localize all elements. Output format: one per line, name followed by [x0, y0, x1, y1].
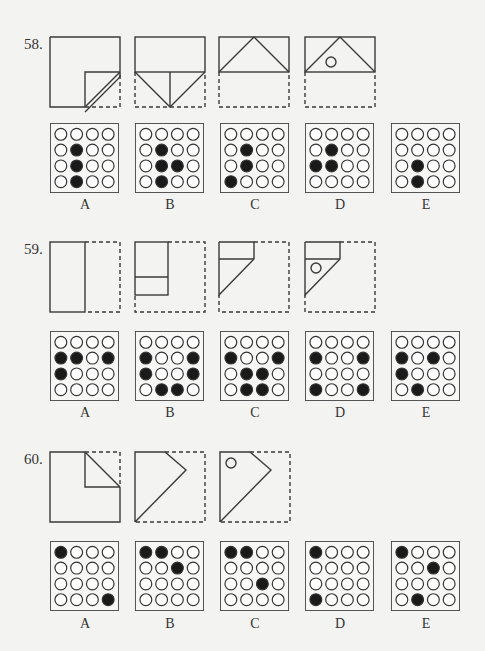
empty-dot-icon: [156, 368, 168, 380]
empty-dot-icon: [225, 594, 237, 606]
empty-dot-icon: [55, 128, 67, 140]
q58-option-d[interactable]: [305, 123, 374, 193]
empty-dot-icon: [187, 594, 199, 606]
q59-option-a[interactable]: [50, 331, 119, 401]
filled-dot-icon: [171, 562, 183, 574]
empty-dot-icon: [341, 594, 353, 606]
q59-option-e[interactable]: [391, 331, 460, 401]
empty-dot-icon: [171, 336, 183, 348]
filled-dot-icon: [396, 352, 408, 364]
filled-dot-icon: [187, 368, 199, 380]
filled-dot-icon: [310, 160, 322, 172]
empty-dot-icon: [140, 336, 152, 348]
filled-dot-icon: [396, 546, 408, 558]
filled-dot-icon: [326, 144, 338, 156]
empty-dot-icon: [272, 578, 284, 590]
empty-dot-icon: [71, 562, 83, 574]
empty-dot-icon: [256, 336, 268, 348]
empty-dot-icon: [256, 176, 268, 188]
empty-dot-icon: [140, 384, 152, 396]
empty-dot-icon: [225, 144, 237, 156]
q59-option-c[interactable]: [220, 331, 289, 401]
filled-dot-icon: [427, 562, 439, 574]
empty-dot-icon: [256, 594, 268, 606]
empty-dot-icon: [187, 384, 199, 396]
empty-dot-icon: [427, 578, 439, 590]
empty-dot-icon: [272, 368, 284, 380]
empty-dot-icon: [225, 128, 237, 140]
empty-dot-icon: [357, 160, 369, 172]
q58-option-e[interactable]: [391, 123, 460, 193]
empty-dot-icon: [357, 368, 369, 380]
empty-dot-icon: [156, 578, 168, 590]
empty-dot-icon: [396, 160, 408, 172]
empty-dot-icon: [412, 562, 424, 574]
q58-option-a[interactable]: [50, 123, 119, 193]
q60-option-e[interactable]: [391, 541, 460, 611]
filled-dot-icon: [156, 176, 168, 188]
q60-option-a[interactable]: [50, 541, 119, 611]
empty-dot-icon: [171, 352, 183, 364]
empty-dot-icon: [171, 546, 183, 558]
filled-dot-icon: [412, 176, 424, 188]
empty-dot-icon: [55, 384, 67, 396]
filled-dot-icon: [357, 384, 369, 396]
empty-dot-icon: [443, 176, 455, 188]
filled-dot-icon: [156, 546, 168, 558]
filled-dot-icon: [310, 594, 322, 606]
empty-dot-icon: [86, 128, 98, 140]
q60-option-d[interactable]: [305, 541, 374, 611]
q58-fold-step-3: [219, 37, 289, 107]
empty-dot-icon: [241, 578, 253, 590]
filled-dot-icon: [171, 384, 183, 396]
empty-dot-icon: [140, 128, 152, 140]
empty-dot-icon: [326, 546, 338, 558]
empty-dot-icon: [140, 160, 152, 172]
empty-dot-icon: [412, 368, 424, 380]
empty-dot-icon: [156, 562, 168, 574]
empty-dot-icon: [427, 160, 439, 172]
empty-dot-icon: [156, 128, 168, 140]
q60-fold-step-2: [135, 452, 205, 522]
empty-dot-icon: [272, 594, 284, 606]
filled-dot-icon: [140, 546, 152, 558]
q59-option-b[interactable]: [135, 331, 204, 401]
filled-dot-icon: [412, 384, 424, 396]
empty-dot-icon: [171, 128, 183, 140]
empty-dot-icon: [341, 128, 353, 140]
empty-dot-icon: [241, 176, 253, 188]
empty-dot-icon: [102, 144, 114, 156]
empty-dot-icon: [326, 368, 338, 380]
q58-option-c[interactable]: [220, 123, 289, 193]
q58-fold-step-2: [135, 37, 205, 107]
empty-dot-icon: [86, 384, 98, 396]
empty-dot-icon: [443, 594, 455, 606]
empty-dot-icon: [310, 368, 322, 380]
empty-dot-icon: [341, 578, 353, 590]
empty-dot-icon: [86, 160, 98, 172]
empty-dot-icon: [71, 128, 83, 140]
empty-dot-icon: [86, 176, 98, 188]
empty-dot-icon: [102, 368, 114, 380]
empty-dot-icon: [225, 160, 237, 172]
empty-dot-icon: [102, 546, 114, 558]
filled-dot-icon: [156, 384, 168, 396]
filled-dot-icon: [187, 352, 199, 364]
q60-option-c[interactable]: [220, 541, 289, 611]
empty-dot-icon: [310, 578, 322, 590]
filled-dot-icon: [256, 578, 268, 590]
empty-dot-icon: [341, 352, 353, 364]
q59-option-b-label: B: [135, 406, 205, 420]
q60-option-b[interactable]: [135, 541, 204, 611]
empty-dot-icon: [55, 594, 67, 606]
empty-dot-icon: [171, 578, 183, 590]
empty-dot-icon: [341, 368, 353, 380]
q60-fold-step-3-punch: [220, 452, 290, 522]
filled-dot-icon: [55, 368, 67, 380]
empty-dot-icon: [187, 336, 199, 348]
q58-option-b[interactable]: [135, 123, 204, 193]
q59-option-d[interactable]: [305, 331, 374, 401]
empty-dot-icon: [86, 336, 98, 348]
empty-dot-icon: [443, 352, 455, 364]
empty-dot-icon: [272, 546, 284, 558]
